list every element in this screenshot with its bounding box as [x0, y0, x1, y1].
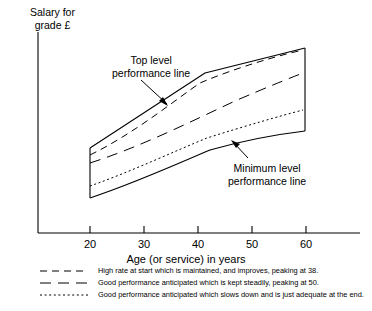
legend-item-peaking-at-38: High rate at start which is maintained, …	[0, 265, 372, 277]
minimum-level-annotation-line1: Minimum level	[234, 162, 301, 174]
chart-legend: High rate at start which is maintained, …	[0, 265, 372, 301]
y-axis-label: Salary forgrade £	[30, 6, 75, 31]
x-tick-label-20: 20	[75, 238, 105, 250]
legend-label-peaking-at-50: Good performance anticipated which is ke…	[98, 277, 319, 289]
salary-vs-age-chart: Salary forgrade £ Top levelperformance l…	[0, 0, 372, 311]
legend-label-peaking-at-38: High rate at start which is maintained, …	[98, 265, 318, 277]
legend-key-dashed-medium	[38, 277, 90, 289]
y-axis-label-line1: Salary for	[30, 6, 75, 18]
x-tick-label-30: 30	[129, 238, 159, 250]
minimum-level-annotation-label: Minimum levelperformance line	[228, 162, 306, 187]
minimum-level-annotation-line2: performance line	[228, 175, 306, 187]
legend-item-slows-down: Good performance anticipated which slows…	[0, 289, 372, 301]
top-level-annotation-label: Top levelperformance line	[112, 54, 190, 79]
x-tick-label-40: 40	[183, 238, 213, 250]
y-axis-label-line2: grade £	[35, 19, 71, 31]
top-level-annotation-line2: performance line	[112, 67, 190, 79]
legend-label-slows-down: Good performance anticipated which slows…	[98, 289, 364, 301]
legend-item-peaking-at-50: Good performance anticipated which is ke…	[0, 277, 372, 289]
legend-key-dashed-long	[38, 265, 90, 277]
x-axis-label: Age (or service) in years	[0, 253, 372, 265]
top-level-annotation-arrow	[141, 80, 168, 106]
x-tick-label-60: 60	[291, 238, 321, 250]
x-axis-ticks	[90, 226, 306, 233]
x-tick-label-50: 50	[237, 238, 267, 250]
legend-key-dotted	[38, 289, 90, 301]
series-peaking-at-50	[90, 73, 303, 163]
top-level-annotation-line1: Top level	[130, 54, 171, 66]
